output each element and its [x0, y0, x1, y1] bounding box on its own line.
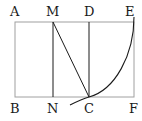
label-d: D [84, 4, 94, 19]
segment-mc [53, 22, 89, 97]
geometry-diagram: A M D E B N C F [0, 0, 142, 121]
label-b: B [10, 101, 20, 116]
label-a: A [9, 4, 20, 19]
rectangle-abfe [15, 22, 134, 97]
label-m: M [46, 4, 59, 19]
label-e: E [125, 4, 135, 19]
label-n: N [47, 101, 58, 116]
label-f: F [129, 101, 138, 116]
arc-ec [70, 17, 134, 105]
label-c: C [84, 101, 94, 116]
